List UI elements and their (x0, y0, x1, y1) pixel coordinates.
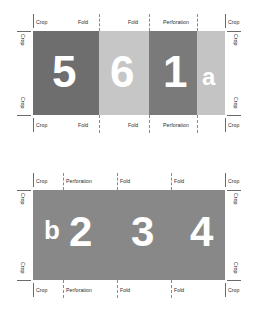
front-bottom-label-fold-1: Fold (78, 122, 88, 128)
front-top-label-perforation: Perforation (163, 19, 189, 25)
back-top-label-crop-right: Crop (228, 178, 239, 184)
front-crop-mark-left-top (17, 31, 31, 32)
back-segment-3-glyph: 3 (131, 211, 154, 253)
front-left-label-crop-bottom: Crop (20, 97, 26, 108)
back-bottom-label-fold-2: Fold (174, 287, 184, 293)
front-crop-mark-top-left (33, 14, 34, 28)
back-mark-line-fold-1-lower (117, 280, 118, 298)
front-crop-mark-bottom-right (225, 118, 226, 132)
back-bottom-label-crop-left: Crop (36, 287, 47, 293)
back-crop-mark-top-left (33, 173, 34, 187)
front-segment-6-glyph: 6 (110, 50, 134, 94)
front-crop-mark-right-bottom (227, 115, 241, 116)
back-sheet: b 2 3 4 Crop Perforation Fold Fold Crop … (0, 160, 258, 321)
back-sheet-panel: b 2 3 4 (33, 190, 225, 280)
front-crop-mark-bottom-left (33, 118, 34, 132)
back-mark-line-fold-1 (117, 173, 118, 190)
front-crop-mark-top-right (225, 14, 226, 28)
front-segment-5: 5 (33, 31, 99, 115)
back-crop-mark-top-right (225, 173, 226, 187)
back-crop-mark-right-bottom (227, 280, 241, 281)
back-segment-4-glyph: 4 (190, 211, 213, 253)
back-crop-mark-bottom-right (225, 283, 226, 297)
back-segment-3: 3 (117, 190, 171, 280)
front-mark-line-perforation-lower (197, 115, 198, 133)
front-bottom-label-crop-left: Crop (36, 122, 47, 128)
back-segment-2: 2 (63, 190, 117, 280)
back-right-label-crop-bottom: Crop (233, 262, 239, 273)
back-bottom-label-perforation: Perforation (66, 287, 92, 293)
front-top-label-fold-2: Fold (128, 19, 138, 25)
back-left-label-crop-top: Crop (20, 193, 26, 204)
front-left-label-crop-top: Crop (20, 34, 26, 45)
back-mark-line-perforation-lower (63, 280, 64, 298)
front-mark-line-fold-1 (99, 14, 100, 31)
front-mark-line-fold-1-lower (99, 115, 100, 133)
front-segment-a-glyph: a (202, 65, 215, 89)
front-segment-1: 1 (149, 31, 197, 115)
front-right-label-crop-bottom: Crop (233, 97, 239, 108)
front-crop-mark-right-top (227, 31, 241, 32)
front-right-label-crop-top: Crop (233, 34, 239, 45)
front-segment-5-glyph: 5 (52, 50, 76, 94)
back-mark-line-fold-2-lower (171, 280, 172, 298)
front-bottom-label-perforation: Perforation (163, 122, 189, 128)
back-top-label-fold-2: Fold (174, 178, 184, 184)
front-segment-a: a (197, 31, 225, 115)
front-sheet: 5 6 1 a Crop Fold Fold Perforation Crop … (0, 0, 258, 160)
front-bottom-label-fold-2: Fold (128, 122, 138, 128)
back-top-label-perforation: Perforation (66, 178, 92, 184)
front-top-label-fold-1: Fold (78, 19, 88, 25)
front-top-label-crop-right: Crop (228, 19, 239, 25)
back-top-label-fold-1: Fold (120, 178, 130, 184)
back-segment-2-glyph: 2 (69, 211, 92, 253)
back-bottom-label-fold-1: Fold (120, 287, 130, 293)
front-mark-line-fold-2-lower (149, 115, 150, 133)
front-mark-line-fold-2 (149, 14, 150, 31)
back-right-label-crop-top: Crop (233, 193, 239, 204)
back-left-label-crop-bottom: Crop (20, 262, 26, 273)
back-mark-line-perforation (63, 173, 64, 190)
front-bottom-label-crop-right: Crop (228, 122, 239, 128)
back-segment-b: b (33, 190, 63, 280)
back-segment-4: 4 (171, 190, 225, 280)
front-segment-6: 6 (99, 31, 149, 115)
front-top-label-crop-left: Crop (36, 19, 47, 25)
back-bottom-label-crop-right: Crop (228, 287, 239, 293)
back-crop-mark-bottom-left (33, 283, 34, 297)
back-crop-mark-left-top (17, 190, 31, 191)
back-mark-line-fold-2 (171, 173, 172, 190)
front-segment-1-glyph: 1 (163, 50, 187, 94)
front-crop-mark-left-bottom (17, 115, 31, 116)
back-segment-b-glyph: b (44, 217, 60, 243)
back-top-label-crop-left: Crop (36, 178, 47, 184)
back-crop-mark-left-bottom (17, 280, 31, 281)
front-mark-line-perforation (197, 14, 198, 31)
back-crop-mark-right-top (227, 190, 241, 191)
front-sheet-panel: 5 6 1 a (33, 31, 225, 115)
